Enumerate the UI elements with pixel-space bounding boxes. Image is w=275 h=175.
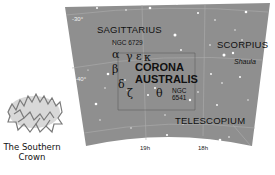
star-zeta: ζ: [127, 88, 133, 99]
star-alpha: α: [112, 49, 119, 60]
constellation-label-telescopium: TELESCOPIUM: [175, 116, 245, 126]
crown-caption: The Southern Crown: [2, 142, 62, 162]
star-label-shaula: Shaula: [234, 58, 256, 65]
star-gamma: γ: [126, 51, 133, 62]
ra-label-18h: 18h: [198, 145, 208, 151]
object-label-ngc6729: NGC 6729: [112, 40, 143, 47]
declination-label-40: -40°: [75, 76, 86, 82]
ra-label-19h: 19h: [140, 145, 150, 151]
constellation-label-scorpius: SCORPIUS: [217, 40, 268, 50]
declination-label-30: -30°: [72, 16, 83, 22]
star-delta: δ: [118, 79, 125, 90]
object-label-ngc6541: NGC 6541: [172, 88, 186, 102]
constellation-label-sagittarius: SAGITTARIUS: [97, 25, 162, 35]
star-theta: θ: [156, 88, 163, 99]
star-beta: β: [112, 64, 118, 75]
southern-crown-illustration: [2, 88, 66, 138]
main-constellation-label: CORONA AUSTRALIS: [135, 62, 198, 85]
